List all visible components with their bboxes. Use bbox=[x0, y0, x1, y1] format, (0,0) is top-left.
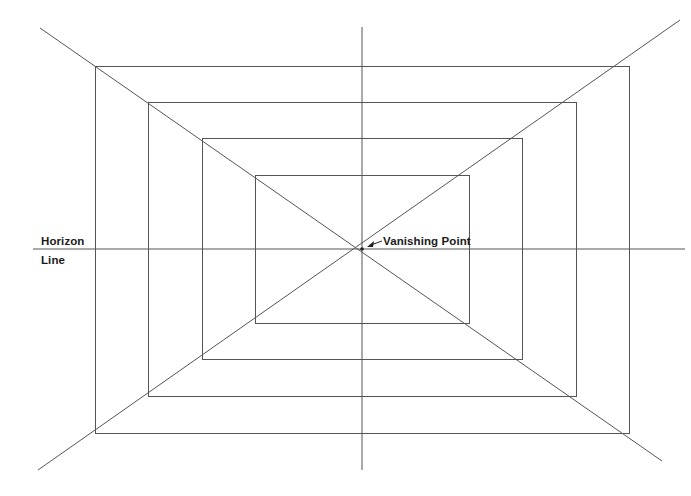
horizon-label-line-1: Horizon bbox=[41, 236, 85, 248]
guide-lines bbox=[33, 20, 685, 470]
horizon-label-line-2: Line bbox=[41, 255, 65, 267]
arrow-head-icon bbox=[367, 241, 374, 247]
vanishing-point-dot bbox=[360, 247, 364, 251]
perspective-diagram bbox=[0, 0, 691, 496]
diagonal-bottom-left-to-top-right bbox=[38, 20, 680, 470]
vanishing-point-label: Vanishing Point bbox=[383, 236, 471, 248]
